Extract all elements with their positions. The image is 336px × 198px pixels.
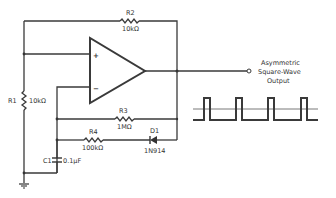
opamp-symbol [90, 38, 145, 103]
r4-resistor [57, 138, 150, 142]
r3-ref: R3 [119, 107, 128, 115]
r4-ref: R4 [89, 128, 98, 136]
c1-ref: C1 [43, 157, 52, 165]
d1-value: 1N914 [144, 147, 165, 155]
r1-ref: R1 [8, 97, 17, 105]
r1-value: 10kΩ [29, 97, 46, 105]
d1-ref: D1 [150, 127, 159, 135]
output-label-line3: Output [267, 77, 290, 85]
minus-sign: − [93, 85, 99, 93]
output-label-line2: Square-Wave [258, 68, 301, 76]
r3-resistor [57, 117, 177, 121]
schematic: + − R2 10kΩ [0, 0, 336, 198]
r4-value: 100kΩ [82, 144, 103, 152]
ground-icon [19, 184, 29, 188]
square-wave-graphic [193, 98, 318, 120]
r3-value: 1MΩ [117, 123, 132, 131]
c1-value: 0.1µF [63, 157, 81, 165]
r1-resistor [22, 21, 26, 183]
output-terminal [247, 69, 251, 73]
c1-capacitor [52, 140, 62, 173]
r2-ref: R2 [126, 9, 135, 17]
r2-value: 10kΩ [122, 25, 139, 33]
output-label-line1: Asymmetric [261, 59, 300, 67]
plus-sign: + [93, 52, 99, 60]
d1-diode [150, 136, 177, 144]
